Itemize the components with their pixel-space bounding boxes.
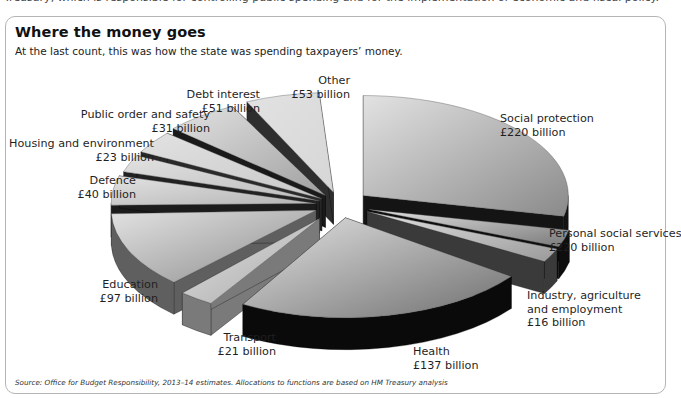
pie-label-value: £53 billion <box>260 88 350 102</box>
pie-label-category: Housing and environment <box>2 137 154 151</box>
pie-label-value: £51 billion <box>170 102 260 116</box>
pie-label-category: Other <box>260 74 350 88</box>
pie-label-defence: Defence£40 billion <box>40 174 136 201</box>
pie-label-category: Personal social services <box>549 227 681 241</box>
pie-label-housing: Housing and environment£23 billion <box>2 137 154 164</box>
pie-label-social-protection: Social protection£220 billion <box>500 112 594 139</box>
pie-label-value: £23 billion <box>2 151 154 165</box>
pie-label-education: Education£97 billion <box>68 278 158 305</box>
pie-label-category: Defence <box>40 174 136 188</box>
pie-label-value: £21 billion <box>186 345 276 359</box>
pie-label-category: Debt interest <box>170 88 260 102</box>
pie-label-category: Social protection <box>500 112 594 126</box>
pie-label-category: Health <box>413 345 479 359</box>
pie-label-category: Industry, agriculture <box>527 289 641 303</box>
pie-label-value: £137 billion <box>413 359 479 373</box>
pie-label-health: Health£137 billion <box>413 345 479 372</box>
pie-label-category: and employment <box>527 303 641 317</box>
pie-label-category: Transport <box>186 331 276 345</box>
pie-label-value: £220 billion <box>549 241 681 255</box>
pie-label-value: £16 billion <box>527 316 641 330</box>
pie-label-personal-social: Personal social services£220 billion <box>549 227 681 254</box>
pie-label-other: Other£53 billion <box>260 74 350 101</box>
pie-label-value: £31 billion <box>60 122 210 136</box>
pie-label-transport: Transport£21 billion <box>186 331 276 358</box>
pie-label-industry: Industry, agricultureand employment£16 b… <box>527 289 641 330</box>
pie-label-category: Education <box>68 278 158 292</box>
pie-label-value: £97 billion <box>68 292 158 306</box>
pie-label-value: £40 billion <box>40 188 136 202</box>
figure-source-note: Source: Office for Budget Responsibility… <box>15 378 448 387</box>
pie-label-debt-interest: Debt interest£51 billion <box>170 88 260 115</box>
pie-label-value: £220 billion <box>500 126 594 140</box>
